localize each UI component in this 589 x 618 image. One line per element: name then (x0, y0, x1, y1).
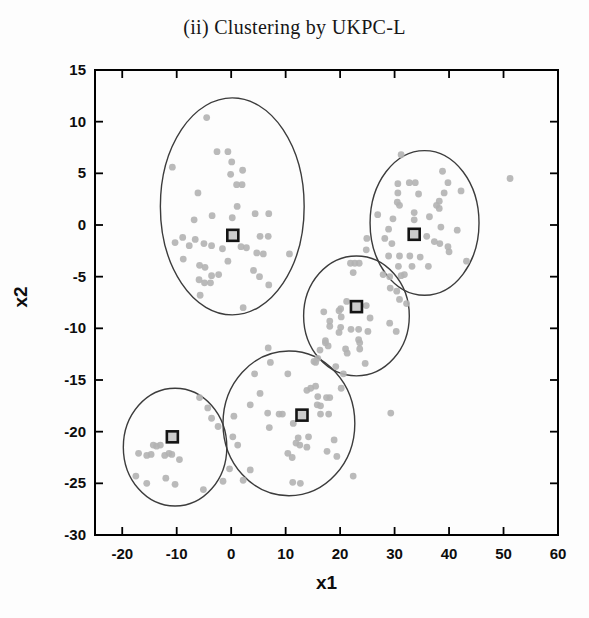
scatter-point (251, 370, 258, 377)
centroid-marker (167, 431, 178, 442)
scatter-point (350, 269, 357, 276)
scatter-point (311, 358, 318, 365)
scatter-point (265, 282, 272, 289)
scatter-point (445, 179, 452, 186)
scatter-point (401, 271, 408, 278)
scatter-point (208, 415, 215, 422)
scatter-point (214, 148, 221, 155)
scatter-point (417, 254, 424, 261)
scatter-point (289, 454, 296, 461)
scatter-point (234, 203, 241, 210)
scatter-point (344, 350, 351, 357)
centroid-marker (296, 410, 307, 421)
y-tick-label: 5 (78, 164, 86, 181)
scatter-point (208, 272, 215, 279)
scatter-point (162, 475, 169, 482)
scatter-point (409, 263, 416, 270)
scatter-point (257, 390, 264, 397)
scatter-point (396, 296, 403, 303)
scatter-point (441, 190, 448, 197)
scatter-point (333, 453, 340, 460)
scatter-point (239, 181, 246, 188)
scatter-point (356, 339, 363, 346)
scatter-point (411, 209, 418, 216)
scatter-point (412, 179, 419, 186)
scatter-point (289, 479, 296, 486)
scatter-point (172, 481, 179, 488)
scatter-point (436, 240, 443, 247)
x-tick-label: 10 (277, 545, 294, 562)
cluster-ellipse (123, 388, 226, 506)
scatter-point (390, 215, 397, 222)
scatter-point (362, 360, 369, 367)
scatter-point (148, 451, 155, 458)
figure-page: (ii) Clustering by UKPC-L -20-1001020304… (0, 0, 589, 618)
scatter-point (336, 329, 343, 336)
scatter-point (320, 308, 327, 315)
scatter-point (317, 411, 324, 418)
y-axis-label: x2 (10, 286, 32, 307)
scatter-point (326, 323, 333, 330)
centroid-marker (409, 229, 420, 240)
scatter-point (317, 347, 324, 354)
scatter-point (356, 260, 363, 267)
scatter-point (423, 233, 430, 240)
scatter-point (239, 167, 246, 174)
scatter-point (394, 190, 401, 197)
x-tick-label: 0 (227, 545, 235, 562)
scatter-point (197, 292, 204, 299)
scatter-point (253, 250, 260, 257)
scatter-point (393, 328, 400, 335)
scatter-point (363, 302, 370, 309)
scatter-point (323, 394, 330, 401)
scatter-point (176, 456, 183, 463)
scatter-point (252, 210, 259, 217)
scatter-point (279, 411, 286, 418)
scatter-point (393, 288, 400, 295)
scatter-point (243, 244, 250, 251)
scatter-point (228, 159, 235, 166)
scatter-point (364, 328, 371, 335)
y-tick-label: -20 (64, 423, 86, 440)
scatter-plot-canvas: -20-100102030405060151050-5-10-15-20-25-… (0, 0, 589, 618)
scatter-point (192, 236, 199, 243)
scatter-point (363, 246, 370, 253)
scatter-point (201, 240, 208, 247)
scatter-point (247, 401, 254, 408)
scatter-point (386, 320, 393, 327)
scatter-point (436, 205, 443, 212)
scatter-point (388, 240, 395, 247)
scatter-point (385, 226, 392, 233)
scatter-point (215, 271, 222, 278)
scatter-point (446, 248, 453, 255)
scatter-point (331, 437, 338, 444)
scatter-point (394, 180, 401, 187)
scatter-point (324, 448, 331, 455)
scatter-point (219, 245, 226, 252)
scatter-point (143, 480, 150, 487)
scatter-point (303, 444, 310, 451)
scatter-point (231, 413, 238, 420)
scatter-point (265, 345, 272, 352)
scatter-point (186, 242, 193, 249)
scatter-point (226, 465, 233, 472)
scatter-point (356, 346, 363, 353)
scatter-point (355, 326, 362, 333)
x-tick-label: 40 (441, 545, 458, 562)
scatter-point (191, 216, 198, 223)
scatter-point (317, 402, 324, 409)
scatter-point (229, 214, 236, 221)
scatter-point (284, 370, 291, 377)
scatter-point (325, 411, 332, 418)
scatter-point (463, 258, 470, 265)
cluster-ellipse (160, 98, 304, 315)
scatter-point (385, 253, 392, 260)
centroid-marker (351, 301, 362, 312)
scatter-point (386, 273, 393, 280)
scatter-point (322, 339, 329, 346)
scatter-point (215, 423, 222, 430)
y-tick-label: -30 (64, 526, 86, 543)
scatter-point (338, 314, 345, 321)
scatter-point (415, 191, 422, 198)
scatter-point (406, 253, 413, 260)
